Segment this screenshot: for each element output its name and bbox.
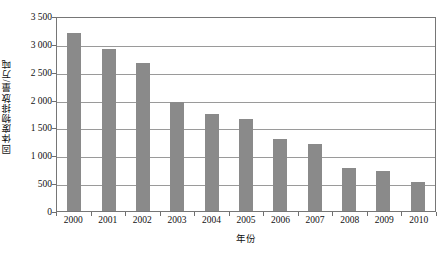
bar: [376, 171, 390, 211]
bar-slot: [263, 18, 297, 211]
bar: [239, 119, 253, 211]
y-axis-tick-label: 1 000: [8, 151, 52, 161]
y-axis-tick-label: 3 500: [8, 12, 52, 22]
bar: [67, 33, 81, 211]
x-axis-minor-tick: [436, 212, 437, 216]
bar-slot: [229, 18, 263, 211]
bar-slot: [401, 18, 435, 211]
bar: [205, 114, 219, 212]
y-axis-tick-label: 0: [8, 207, 52, 217]
x-axis-tick-label: 2002: [125, 213, 160, 229]
y-axis-tick-label: 1 500: [8, 123, 52, 133]
bar-slot: [194, 18, 228, 211]
bar-slot: [298, 18, 332, 211]
bar: [170, 102, 184, 211]
bar-slot: [332, 18, 366, 211]
bar: [136, 63, 150, 211]
x-axis-tick-label: 2006: [263, 213, 298, 229]
y-axis-tick-label: 2 000: [8, 96, 52, 106]
bar-chart-figure: 固体废物排放量/万吨 05001 0001 5002 0002 5003 000…: [0, 0, 445, 261]
x-axis-tick-label: 2010: [401, 213, 436, 229]
bar: [342, 168, 356, 211]
y-axis-tick-group: 05001 0001 5002 0002 5003 0003 500: [0, 17, 52, 213]
x-axis-tick-label: 2003: [160, 213, 195, 229]
bar: [411, 182, 425, 211]
plot-area: [56, 17, 436, 212]
bar-slot: [57, 18, 91, 211]
x-axis-tick-label: 2008: [332, 213, 367, 229]
x-axis-tick-label: 2009: [367, 213, 402, 229]
x-axis-tick-label: 2005: [229, 213, 264, 229]
bar-slot: [160, 18, 194, 211]
y-axis-tick-label: 2 500: [8, 68, 52, 78]
x-axis-tick-label: 2000: [56, 213, 91, 229]
bar-slot: [126, 18, 160, 211]
y-axis-tick-label: 3 000: [8, 40, 52, 50]
x-axis-tick-label: 2001: [91, 213, 126, 229]
x-axis-title: 年份: [56, 231, 436, 245]
bar: [308, 144, 322, 211]
bar: [273, 139, 287, 211]
bar-slot: [91, 18, 125, 211]
x-axis-tick-label: 2007: [298, 213, 333, 229]
x-axis-tick-group: 2000200120022003200420052006200720082009…: [56, 213, 436, 229]
bar: [102, 49, 116, 211]
bar-slot: [366, 18, 400, 211]
y-axis-tick-label: 500: [8, 179, 52, 189]
bar-series: [57, 18, 435, 211]
x-axis-tick-label: 2004: [194, 213, 229, 229]
